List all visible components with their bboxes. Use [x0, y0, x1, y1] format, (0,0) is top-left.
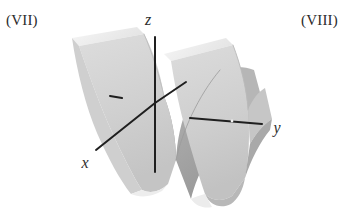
figure-root: (VII) (VIII) [0, 0, 344, 219]
y-axis-label: y [271, 119, 281, 137]
surface-plot: z x y [0, 0, 344, 219]
z-axis-label: z [144, 11, 152, 28]
x-axis-label: x [80, 154, 88, 171]
y-axis-crossing-highlight [231, 120, 234, 123]
